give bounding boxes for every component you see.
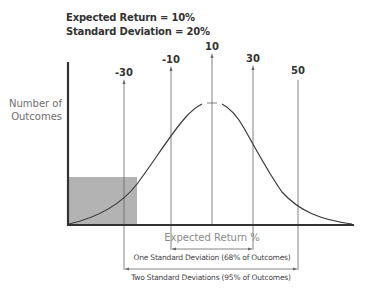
one-sd-label: One Standard Deviation (68% of Outcomes)	[133, 253, 290, 262]
two-sd-label: Two Standard Deviations (95% of Outcomes…	[131, 273, 291, 282]
distribution-curve-right	[222, 104, 352, 224]
two-sd-bracket	[125, 268, 297, 271]
x-axis-label: Expected Return %	[164, 232, 260, 243]
one-sd-bracket	[172, 248, 252, 251]
guide-arrowheads	[123, 53, 255, 84]
shaded-region	[69, 177, 137, 225]
chart-plot	[0, 0, 365, 289]
